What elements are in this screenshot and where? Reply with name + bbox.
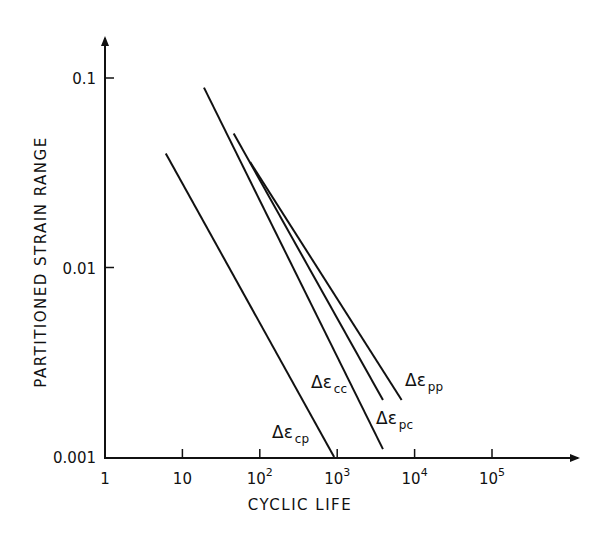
series-label-pp: Δεpp [405, 370, 443, 394]
x-tick-label: 104 [402, 466, 428, 488]
x-tick-label: 1 [100, 470, 110, 488]
x-axis-title: CYCLIC LIFE [248, 496, 352, 514]
y-tick-label: 0.01 [63, 260, 96, 278]
x-ticks: 110102103104105 [100, 449, 505, 488]
series-lines [166, 88, 402, 457]
x-tick-label: 105 [479, 466, 505, 488]
x-tick-label: 103 [324, 466, 350, 488]
y-tick-label: 0.001 [53, 449, 96, 467]
series-labels: ΔεcpΔεccΔεpcΔεpp [272, 370, 443, 446]
series-line-pc [234, 133, 383, 400]
series-label-cp: Δεcp [272, 422, 309, 446]
x-tick-label: 102 [247, 466, 273, 488]
series-label-pc: Δεpc [376, 408, 413, 432]
x-tick-label: 10 [173, 470, 192, 488]
y-tick-label: 0.1 [72, 70, 96, 88]
series-label-cc: Δεcc [311, 372, 347, 396]
series-line-cc [204, 88, 383, 450]
y-axis-title: PARTITIONED STRAIN RANGE [32, 136, 50, 387]
strain-life-chart: 110102103104105 0.0010.010.1 ΔεcpΔεccΔεp… [0, 0, 592, 538]
series-line-cp [166, 153, 334, 457]
series-line-pp [250, 162, 402, 400]
